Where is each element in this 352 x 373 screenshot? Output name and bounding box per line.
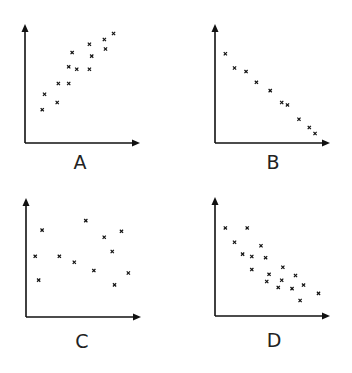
data-point	[264, 256, 267, 259]
data-point	[88, 68, 91, 71]
data-point	[92, 269, 95, 272]
data-point	[317, 292, 320, 295]
data-point	[75, 68, 78, 71]
data-point	[34, 255, 37, 258]
y-axis-arrow-icon	[23, 198, 30, 206]
data-point	[67, 82, 70, 85]
x-axis-arrow-icon	[133, 314, 141, 321]
x-axis-arrow-icon	[322, 140, 330, 147]
data-point	[103, 236, 106, 239]
data-point	[302, 283, 305, 286]
data-point	[294, 274, 297, 277]
data-point	[255, 81, 258, 84]
data-point	[71, 51, 74, 54]
data-point	[299, 299, 302, 302]
data-point	[313, 132, 316, 135]
data-point	[57, 82, 60, 85]
data-point	[58, 255, 61, 258]
data-point	[224, 52, 227, 55]
panel-label-b: B	[243, 151, 303, 173]
x-axis-arrow-icon	[322, 313, 330, 320]
data-point	[111, 250, 114, 253]
y-axis-arrow-icon	[212, 24, 219, 32]
data-point	[224, 226, 227, 229]
data-point	[269, 89, 272, 92]
data-point	[41, 108, 44, 111]
data-point	[84, 219, 87, 222]
scatter-panel-c: C	[0, 186, 176, 372]
data-point	[250, 268, 253, 271]
scatter-panel-d: D	[176, 186, 352, 372]
data-point	[246, 226, 249, 229]
data-point	[73, 261, 76, 264]
panel-label-c: C	[52, 330, 112, 352]
scatter-panel-a: A	[0, 0, 176, 186]
data-point	[56, 101, 59, 104]
data-point	[67, 65, 70, 68]
data-point	[286, 103, 289, 106]
data-point	[308, 126, 311, 129]
scatter-panel-b: B	[176, 0, 352, 186]
data-point	[37, 279, 40, 282]
data-point	[88, 43, 91, 46]
y-axis-arrow-icon	[212, 197, 219, 205]
data-point	[104, 47, 107, 50]
data-point	[277, 286, 280, 289]
data-point	[290, 287, 293, 290]
data-point	[297, 118, 300, 121]
x-axis-arrow-icon	[132, 140, 140, 147]
data-point	[112, 32, 115, 35]
data-point	[280, 279, 283, 282]
panel-label-d: D	[244, 329, 304, 351]
data-point	[127, 271, 130, 274]
data-point	[281, 266, 284, 269]
data-point	[265, 280, 268, 283]
data-point	[103, 38, 106, 41]
data-point	[267, 273, 270, 276]
data-point	[113, 283, 116, 286]
data-point	[250, 255, 253, 258]
data-point	[259, 244, 262, 247]
panel-label-a: A	[50, 151, 110, 173]
data-point	[280, 101, 283, 104]
y-axis-arrow-icon	[22, 24, 29, 32]
data-point	[41, 229, 44, 232]
data-point	[244, 70, 247, 73]
data-point	[120, 230, 123, 233]
data-point	[43, 93, 46, 96]
data-point	[90, 55, 93, 58]
data-point	[233, 66, 236, 69]
data-point	[241, 253, 244, 256]
data-point	[233, 241, 236, 244]
